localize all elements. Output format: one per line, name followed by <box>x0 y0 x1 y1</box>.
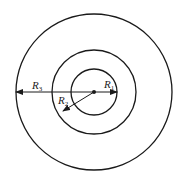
concentric-circles-diagram: R3 R1 R2 <box>0 0 187 177</box>
label-r2: R2 <box>57 94 69 108</box>
center-dot <box>92 90 96 94</box>
label-r3: R3 <box>31 79 43 93</box>
diagram-canvas: R3 R1 R2 <box>0 0 187 177</box>
